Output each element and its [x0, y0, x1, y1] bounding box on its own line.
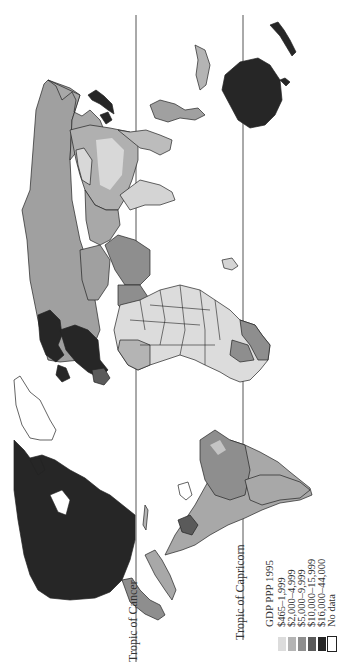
- legend-swatch-5: [317, 636, 327, 652]
- tropic-of-capricorn-label: Tropic of Capricorn: [233, 544, 248, 640]
- legend-swatch-2: [287, 636, 297, 652]
- region-indonesia: [150, 100, 205, 122]
- region-philippines: [195, 45, 210, 90]
- region-argentina: [245, 475, 310, 505]
- region-africa-north: [118, 340, 150, 370]
- region-greenland: [14, 376, 56, 440]
- region-new-zealand: [270, 22, 296, 56]
- tropic-of-cancer-label: Tropic of Cancer: [126, 580, 141, 662]
- legend-swatch-1: [277, 636, 287, 652]
- region-korea: [100, 112, 112, 124]
- region-australia: [222, 58, 282, 128]
- legend-swatch-nodata: [327, 636, 337, 652]
- region-central-america: [145, 550, 176, 600]
- region-caribbean: [143, 505, 148, 530]
- region-japan: [88, 90, 114, 114]
- region-middle-east: [105, 235, 150, 285]
- region-uk: [56, 365, 70, 382]
- legend-swatch-4: [307, 636, 317, 652]
- region-madagascar: [222, 258, 238, 270]
- region-new-guinea: [280, 78, 290, 86]
- legend-swatch-3: [297, 636, 307, 652]
- region-guyana: [178, 482, 192, 500]
- legend-item-6-label: No data: [326, 594, 337, 627]
- legend-title: GDP PPP 1995: [263, 560, 275, 627]
